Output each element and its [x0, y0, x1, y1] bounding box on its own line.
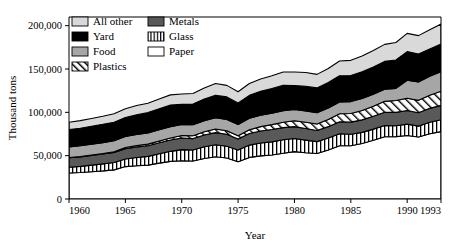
x-tick-label: 1960	[69, 205, 90, 216]
x-tick-label: 1980	[284, 205, 305, 216]
x-tick-label: 1993	[420, 205, 441, 216]
y-axis-ticks: 050,000100,000150,000200,000	[28, 20, 69, 204]
legend-label-all-other: All other	[93, 15, 133, 27]
legend-swatch-yard	[72, 32, 88, 41]
legend-label-food: Food	[93, 45, 116, 57]
legend-swatch-glass	[148, 32, 164, 41]
y-tick-label: 150,000	[28, 64, 62, 75]
y-tick-label: 50,000	[33, 150, 62, 161]
x-tick-label: 1970	[171, 205, 192, 216]
y-tick-label: 100,000	[28, 107, 62, 118]
legend-label-metals: Metals	[169, 15, 199, 27]
legend-label-yard: Yard	[93, 30, 114, 42]
legend-swatch-food	[72, 47, 88, 56]
x-tick-label: 1990	[397, 205, 418, 216]
legend-swatch-all-other	[72, 17, 88, 26]
legend-label-plastics: Plastics	[93, 60, 127, 72]
x-tick-label: 1965	[115, 205, 136, 216]
y-tick-label: 200,000	[28, 20, 62, 31]
x-tick-label: 1985	[340, 205, 361, 216]
legend-swatch-metals	[148, 17, 164, 26]
y-axis-title: Thousand tons	[6, 76, 18, 140]
legend-label-paper: Paper	[169, 45, 194, 57]
legend-swatch-paper	[148, 47, 164, 56]
x-axis-ticks: 19601965197019751980198519901993	[69, 199, 441, 216]
legend-swatch-plastics	[72, 62, 88, 71]
y-tick-label: 0	[57, 194, 62, 205]
area-series-group	[69, 24, 441, 199]
chart-legend: All otherYardFoodPlasticsMetalsGlassPape…	[72, 15, 199, 72]
stacked-area-chart: 050,000100,000150,000200,000 19601965197…	[0, 0, 452, 245]
x-tick-label: 1975	[228, 205, 249, 216]
chart-figure: 050,000100,000150,000200,000 19601965197…	[0, 0, 452, 245]
legend-label-glass: Glass	[169, 30, 193, 42]
x-axis-title: Year	[245, 229, 266, 241]
